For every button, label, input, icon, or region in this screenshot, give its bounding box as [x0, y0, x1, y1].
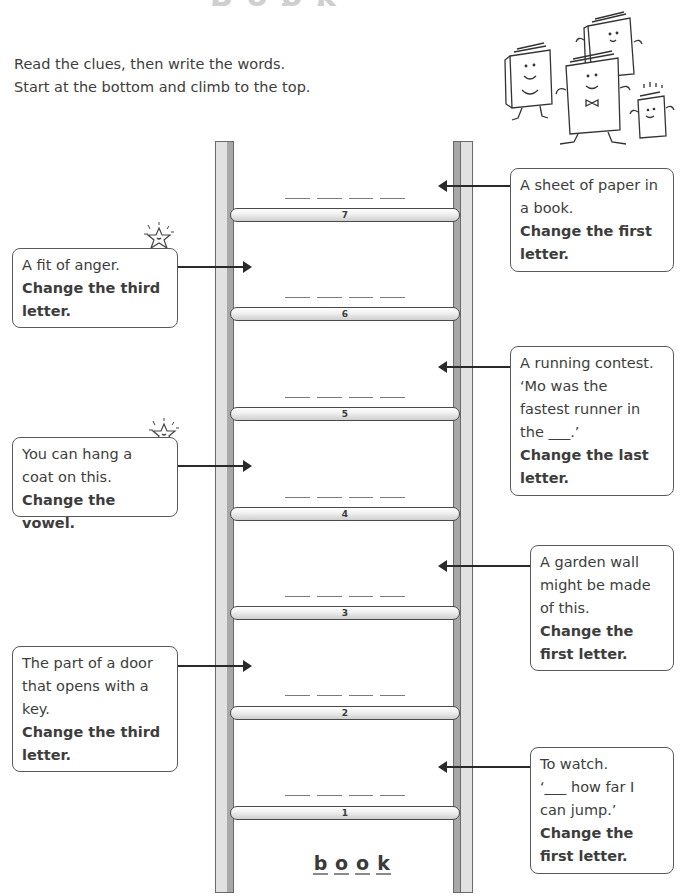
arrow-left-icon: [446, 185, 512, 187]
letter-blank[interactable]: [349, 297, 374, 298]
rung-number: 7: [231, 209, 459, 221]
clue-text: might be made: [540, 574, 665, 597]
clue-text: A sheet of paper in: [520, 174, 665, 197]
rung-number: 4: [231, 508, 459, 520]
letter-blank[interactable]: [349, 695, 374, 696]
clue-text: coat on this.: [22, 466, 169, 489]
letter-blank[interactable]: [285, 397, 310, 398]
letter-blank[interactable]: [380, 795, 405, 796]
letter-blank[interactable]: [380, 497, 405, 498]
clue-text: A fit of anger.: [22, 254, 169, 277]
clue-text: that opens with a: [22, 675, 169, 698]
clue-text: fastest runner in: [520, 398, 665, 421]
ladder-rung-2: 2: [230, 706, 460, 720]
letter-blank[interactable]: [317, 695, 342, 696]
clue-text: A running contest.: [520, 352, 665, 375]
arrow-left-icon: [446, 766, 532, 768]
rung-number: 6: [231, 308, 459, 320]
ladder-rung-1: 1: [230, 806, 460, 820]
clue-instruction: Change the first letter.: [520, 220, 665, 266]
letter-blank[interactable]: [317, 596, 342, 597]
start-letter: o: [355, 853, 370, 875]
letter-blank[interactable]: [349, 497, 374, 498]
answer-blanks-rung-2[interactable]: [285, 695, 405, 697]
letter-blank[interactable]: [380, 297, 405, 298]
letter-blank[interactable]: [285, 596, 310, 597]
start-letter: b: [313, 853, 328, 875]
letter-blank[interactable]: [317, 497, 342, 498]
letter-blank[interactable]: [317, 297, 342, 298]
cartoon-books-icon: [500, 4, 688, 146]
clue-instruction: Change the vowel.: [22, 489, 169, 535]
clue-instruction: Change the first letter.: [540, 822, 665, 868]
letter-blank[interactable]: [349, 596, 374, 597]
clue-text: can jump.’: [540, 799, 665, 822]
page-title-fragment: Book ladder: [210, 0, 490, 6]
letter-blank[interactable]: [317, 795, 342, 796]
clue-instruction: Change the last letter.: [520, 444, 665, 490]
arrow-left-icon: [446, 366, 512, 368]
letter-blank[interactable]: [380, 397, 405, 398]
clue-box-rung-6: A fit of anger. Change the third letter.: [12, 248, 178, 328]
letter-blank[interactable]: [349, 397, 374, 398]
clue-box-rung-3: A garden wall might be made of this. Cha…: [530, 545, 674, 671]
rung-number: 5: [231, 408, 459, 420]
answer-blanks-rung-6[interactable]: [285, 297, 405, 299]
ladder-rung-6: 6: [230, 307, 460, 321]
clue-text: key.: [22, 698, 169, 721]
letter-blank[interactable]: [285, 497, 310, 498]
instruction-line-2: Start at the bottom and climb to the top…: [14, 76, 310, 99]
rung-number: 1: [231, 807, 459, 819]
letter-blank[interactable]: [317, 397, 342, 398]
ladder-rung-5: 5: [230, 407, 460, 421]
instructions: Read the clues, then write the words. St…: [14, 53, 310, 99]
start-word-book: b o o k: [313, 853, 391, 875]
clue-box-rung-4: You can hang a coat on this. Change the …: [12, 437, 178, 517]
clue-text: A garden wall: [540, 551, 665, 574]
arrow-right-icon: [178, 266, 244, 268]
clue-text: ‘___ how far I: [540, 776, 665, 799]
letter-blank[interactable]: [349, 198, 374, 199]
clue-instruction: Change the third letter.: [22, 277, 169, 323]
letter-blank[interactable]: [285, 297, 310, 298]
clue-instruction: Change the third letter.: [22, 721, 169, 767]
letter-blank[interactable]: [380, 198, 405, 199]
answer-blanks-rung-1[interactable]: [285, 795, 405, 797]
clue-instruction: Change the first letter.: [540, 620, 665, 666]
rung-number: 2: [231, 707, 459, 719]
clue-box-rung-7: A sheet of paper in a book. Change the f…: [510, 168, 674, 272]
letter-blank[interactable]: [349, 795, 374, 796]
answer-blanks-rung-7[interactable]: [285, 198, 405, 200]
arrow-right-icon: [178, 665, 244, 667]
letter-blank[interactable]: [380, 596, 405, 597]
start-letter: k: [376, 853, 391, 875]
answer-blanks-rung-5[interactable]: [285, 397, 405, 399]
ladder-rung-3: 3: [230, 606, 460, 620]
rail-face: [460, 141, 473, 893]
start-letter: o: [334, 853, 349, 875]
clue-text: the ___.’: [520, 421, 665, 444]
letter-blank[interactable]: [285, 695, 310, 696]
arrow-right-icon: [178, 465, 244, 467]
clue-box-rung-1: To watch. ‘___ how far I can jump.’ Chan…: [530, 747, 674, 874]
clue-text: a book.: [520, 197, 665, 220]
ladder-rung-7: 7: [230, 208, 460, 222]
arrow-left-icon: [446, 565, 532, 567]
answer-blanks-rung-3[interactable]: [285, 596, 405, 598]
letter-blank[interactable]: [285, 198, 310, 199]
letter-blank[interactable]: [380, 695, 405, 696]
clue-text: of this.: [540, 597, 665, 620]
clue-text: You can hang a: [22, 443, 169, 466]
instruction-line-1: Read the clues, then write the words.: [14, 53, 310, 76]
answer-blanks-rung-4[interactable]: [285, 497, 405, 499]
clue-box-rung-2: The part of a door that opens with a key…: [12, 646, 178, 772]
letter-blank[interactable]: [285, 795, 310, 796]
clue-text: To watch.: [540, 753, 665, 776]
ladder-rung-4: 4: [230, 507, 460, 521]
letter-blank[interactable]: [317, 198, 342, 199]
clue-text: ‘Mo was the: [520, 375, 665, 398]
clue-box-rung-5: A running contest. ‘Mo was the fastest r…: [510, 346, 674, 496]
rung-number: 3: [231, 607, 459, 619]
clue-text: The part of a door: [22, 652, 169, 675]
